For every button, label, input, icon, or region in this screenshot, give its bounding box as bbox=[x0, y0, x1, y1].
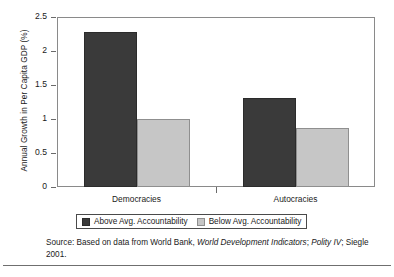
source-line1-prefix: Source: Based on data from World Bank, bbox=[46, 238, 197, 247]
y-tick-label: 1 bbox=[0, 113, 47, 123]
bar-autocracies-series-2 bbox=[296, 128, 349, 187]
y-tick-label: 2 bbox=[0, 45, 47, 55]
y-axis-title: Annual Growth in Per Capita GDP (%) bbox=[20, 11, 29, 191]
y-tick-label: 1.5 bbox=[0, 79, 47, 89]
y-tick-line bbox=[51, 51, 56, 52]
y-tick-label: 0 bbox=[0, 181, 47, 191]
y-tick-label: 0.5 bbox=[0, 147, 47, 157]
legend-entry-above-avg[interactable]: Above Avg. Accountability bbox=[82, 217, 188, 226]
bottom-divider bbox=[3, 265, 391, 266]
source-note: Source: Based on data from World Bank, W… bbox=[46, 237, 376, 260]
x-axis-category-label: Autocracies bbox=[236, 194, 356, 204]
bar-autocracies-series-1 bbox=[243, 98, 296, 187]
y-tick-line bbox=[51, 85, 56, 86]
y-tick-line bbox=[51, 153, 56, 154]
y-tick-line bbox=[51, 119, 56, 120]
legend-swatch-icon-above-avg bbox=[82, 218, 90, 226]
x-axis-category-label: Democracies bbox=[77, 194, 197, 204]
figure-panel: Annual Growth in Per Capita GDP (%) 00.5… bbox=[0, 0, 394, 277]
source-line1-suffix: ; bbox=[307, 238, 309, 247]
legend-label-above-avg: Above Avg. Accountability bbox=[94, 217, 188, 226]
y-tick-line bbox=[51, 187, 56, 188]
source-line1-italic: World Development Indicators bbox=[197, 238, 307, 247]
legend-entry-below-avg[interactable]: Below Avg. Accountability bbox=[197, 217, 302, 226]
legend-label-below-avg: Below Avg. Accountability bbox=[209, 217, 302, 226]
y-tick-label: 2.5 bbox=[0, 11, 47, 21]
legend-swatch-icon-below-avg bbox=[197, 218, 205, 226]
x-tick-separator bbox=[216, 187, 217, 193]
bar-democracies-series-2 bbox=[137, 119, 190, 187]
y-tick-line bbox=[51, 17, 56, 18]
source-line2-italic: Polity IV bbox=[311, 238, 341, 247]
chart-legend: Above Avg. Accountability Below Avg. Acc… bbox=[76, 214, 307, 229]
bar-democracies-series-1 bbox=[84, 32, 137, 187]
